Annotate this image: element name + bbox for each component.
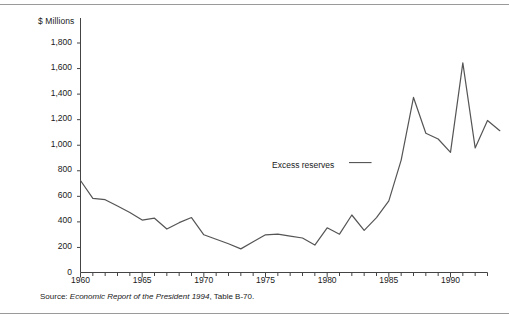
data-series-excess-reserves [81,63,500,249]
y-tick-label: 1,800 [0,38,72,47]
x-tick-label: 1990 [429,276,473,285]
y-tick-label: 600 [0,191,72,200]
figure-excess-reserves: $ Millions 02004006008001,0001,2001,4001… [0,0,509,322]
series-line [81,63,500,249]
series-annotation-label: Excess reserves [272,160,334,170]
x-tick-label: 1960 [59,276,103,285]
x-tick-label: 1970 [182,276,226,285]
source-note: Source: Economic Report of the President… [40,292,254,301]
x-tick-label: 1975 [244,276,288,285]
y-tick-label: 1,600 [0,63,72,72]
source-suffix: , Table B-70. [209,292,254,301]
x-tick-label: 1965 [120,276,164,285]
y-tick-label: 1,200 [0,114,72,123]
y-tick-label: 400 [0,216,72,225]
source-prefix: Source: [40,292,68,301]
x-tick-label: 1985 [367,276,411,285]
y-tick-marks [77,43,81,247]
source-title: Economic Report of the President 1994 [70,292,210,301]
y-tick-label: 1,400 [0,89,72,98]
x-tick-label: 1980 [305,276,349,285]
y-tick-label: 1,000 [0,140,72,149]
chart-canvas [0,0,509,322]
y-tick-label: 200 [0,242,72,251]
y-tick-label: 800 [0,165,72,174]
chart-axes [81,18,488,273]
